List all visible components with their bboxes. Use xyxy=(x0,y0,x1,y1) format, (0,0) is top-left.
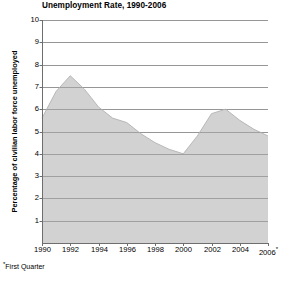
x-tick-label-1994: 1994 xyxy=(91,246,108,254)
x-tick-label-group: 199019921994199619982000200220042006* xyxy=(0,0,281,281)
x-tick-label-1990: 1990 xyxy=(34,246,51,254)
x-tick-label-1996: 1996 xyxy=(119,246,136,254)
x-tick-label-2000: 2000 xyxy=(175,246,192,254)
x-tick-label-2004: 2004 xyxy=(232,246,249,254)
x-tick-footnote-marker: * xyxy=(276,246,278,252)
x-tick-label-1992: 1992 xyxy=(62,246,79,254)
x-tick-label-1998: 1998 xyxy=(147,246,164,254)
x-tick-label-2002: 2002 xyxy=(204,246,221,254)
chart-figure: Unemployment Rate, 1990-2006 Percentage … xyxy=(0,0,281,281)
chart-footnote: *First Quarter xyxy=(3,261,45,270)
footnote-text: First Quarter xyxy=(5,263,44,270)
x-tick-label-2006: 2006* xyxy=(259,246,278,256)
